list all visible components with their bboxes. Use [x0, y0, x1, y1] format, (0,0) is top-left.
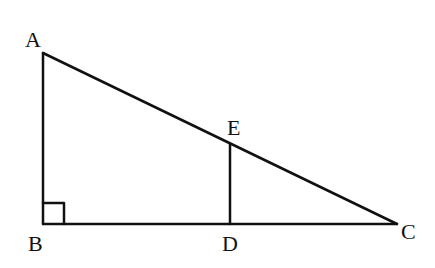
right-angle-marker-b: [43, 203, 64, 224]
label-c: C: [401, 219, 416, 244]
label-a: A: [25, 27, 41, 52]
diagram-canvas: A B C D E: [0, 0, 435, 268]
triangle-diagram: A B C D E: [0, 0, 435, 268]
label-b: B: [28, 231, 43, 256]
segment-ac: [43, 53, 397, 224]
label-e: E: [227, 115, 240, 140]
label-d: D: [222, 231, 238, 256]
